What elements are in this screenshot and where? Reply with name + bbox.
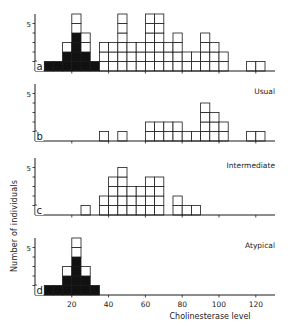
histogram-cell [256, 132, 265, 142]
y-tick-label: 5 [27, 165, 31, 173]
y-tick-label: 5 [27, 245, 31, 253]
histogram-cell [118, 62, 127, 72]
histogram-cell [72, 276, 81, 286]
histogram-cell [72, 14, 81, 24]
histogram-cell [219, 62, 228, 72]
panel-letter: c [37, 205, 43, 216]
histogram-cell [191, 132, 200, 142]
panel-c: 5cIntermediate [27, 158, 276, 218]
histogram-cell [164, 52, 173, 62]
histogram-cell [118, 14, 127, 24]
histogram-cell [127, 52, 136, 62]
histogram-cell [145, 52, 154, 62]
histogram-cell [63, 286, 72, 296]
histogram-cell [118, 206, 127, 216]
panel-d: 5dAtypical20406080100120 [27, 238, 275, 309]
histogram-cell [155, 33, 164, 43]
histogram-cell [155, 206, 164, 216]
histogram-cell [72, 257, 81, 267]
histogram-cell [182, 52, 191, 62]
panel-title: Usual [254, 87, 275, 96]
panel-title: Atypical [245, 241, 275, 250]
histogram-cell [127, 62, 136, 72]
histogram-cell [210, 122, 219, 132]
panel-b: 5bUsual [27, 84, 275, 144]
x-tick-label: 80 [177, 300, 187, 309]
histogram-cell [191, 62, 200, 72]
histogram-cell [201, 33, 210, 43]
histogram-cell [219, 132, 228, 142]
x-axis-label: Cholinesterase level [169, 312, 250, 321]
histogram-cell [63, 267, 72, 277]
histogram-cell [99, 206, 108, 216]
histogram-cell [191, 206, 200, 216]
histogram-cell [247, 62, 256, 72]
histogram-cell [173, 62, 182, 72]
histogram-cell [72, 52, 81, 62]
histogram-cell [127, 196, 136, 206]
histogram-cell [145, 62, 154, 72]
x-tick-label: 20 [67, 300, 77, 309]
y-tick-label: 5 [27, 21, 31, 29]
histogram-cell [118, 168, 127, 178]
histogram-cell [256, 62, 265, 72]
histogram-cell [118, 187, 127, 197]
histogram-cell [99, 196, 108, 206]
histogram-cell [72, 24, 81, 34]
histogram-cell [118, 33, 127, 43]
histogram-cell [53, 62, 62, 72]
panel-title: Intermediate [227, 161, 276, 170]
histogram-cell [109, 196, 118, 206]
histogram-cell [136, 187, 145, 197]
histogram-cell [201, 103, 210, 113]
panel-letter: a [37, 61, 43, 72]
histogram-cell [81, 33, 90, 43]
histogram-cell [81, 62, 90, 72]
histogram-cell [182, 132, 191, 142]
histogram-cell [155, 14, 164, 24]
histogram-cell [155, 24, 164, 34]
histogram-cell [164, 43, 173, 53]
histogram-cell [109, 177, 118, 187]
histogram-cell [155, 62, 164, 72]
histogram-cell [72, 248, 81, 258]
x-tick-label: 40 [104, 300, 114, 309]
histogram-cell [44, 62, 53, 72]
histogram-cell [109, 187, 118, 197]
histogram-cell [210, 52, 219, 62]
histogram-cell [145, 14, 154, 24]
histogram-cell [145, 206, 154, 216]
histogram-cell [155, 187, 164, 197]
histogram-cell [109, 43, 118, 53]
histogram-cell [155, 196, 164, 206]
histogram-cell [145, 122, 154, 132]
panel-a: 5a [27, 14, 275, 74]
histogram-cell [145, 33, 154, 43]
histogram-figure: 5a5bUsual5cIntermediate5dAtypical2040608… [0, 0, 288, 326]
histogram-cell [201, 43, 210, 53]
histogram-cell [118, 52, 127, 62]
histogram-cell [182, 206, 191, 216]
histogram-cell [81, 276, 90, 286]
histogram-cell [145, 177, 154, 187]
panel-letter: b [37, 131, 43, 142]
histogram-cell [72, 267, 81, 277]
histogram-cell [201, 62, 210, 72]
histogram-cell [81, 267, 90, 277]
histogram-cell [118, 177, 127, 187]
histogram-cell [145, 132, 154, 142]
histogram-cell [173, 122, 182, 132]
histogram-cell [63, 52, 72, 62]
histogram-cell [63, 62, 72, 72]
histogram-cell [72, 238, 81, 248]
histogram-cell [247, 132, 256, 142]
histogram-cell [127, 187, 136, 197]
histogram-cell [99, 43, 108, 53]
histogram-cell [136, 196, 145, 206]
histogram-cell [219, 122, 228, 132]
histogram-cell [90, 62, 99, 72]
histogram-cell [99, 52, 108, 62]
histogram-cell [72, 43, 81, 53]
histogram-cell [155, 52, 164, 62]
histogram-cell [155, 122, 164, 132]
